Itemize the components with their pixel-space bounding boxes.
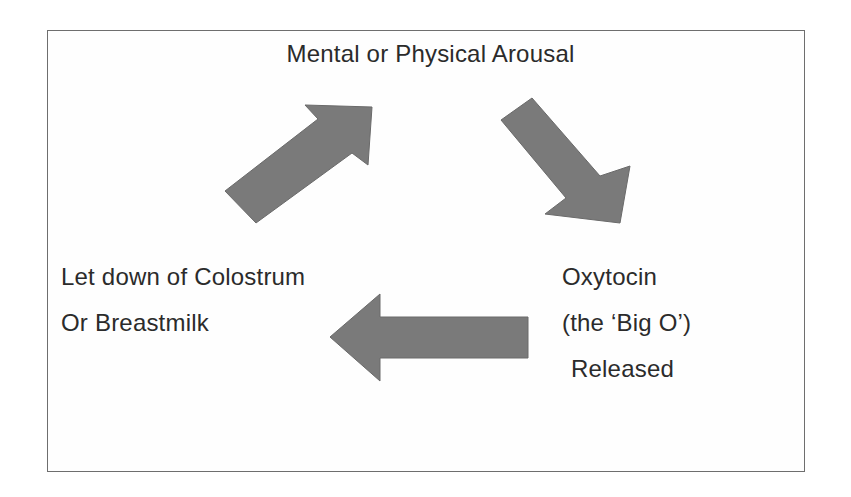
arrows-layer	[0, 0, 851, 497]
arrow-down-right-icon	[501, 98, 630, 223]
arrow-left-icon	[330, 294, 528, 381]
arrow-up-right-icon	[225, 105, 372, 223]
